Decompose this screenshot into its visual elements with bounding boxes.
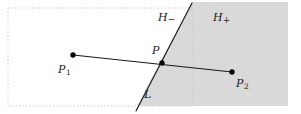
- label-h-plus: H+: [213, 12, 230, 25]
- geometry-figure: H− H+ P P1 P2 L: [0, 0, 301, 114]
- label-line-l: L: [144, 89, 151, 100]
- point-p1-dot: [70, 52, 75, 57]
- point-p2-dot: [229, 69, 234, 74]
- point-p-dot: [159, 60, 164, 65]
- label-point-p2: P2: [236, 78, 249, 91]
- label-point-p: P: [152, 45, 159, 56]
- label-h-minus: H−: [158, 12, 175, 24]
- label-point-p1: P1: [58, 64, 71, 77]
